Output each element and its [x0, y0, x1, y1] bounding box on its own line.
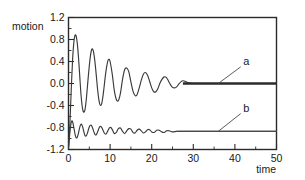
x-axis-title: time	[256, 163, 276, 175]
y-axis-title: motion	[12, 20, 44, 32]
y-tick-label: 1.2	[50, 11, 65, 23]
data-series-group	[69, 35, 277, 149]
curve-annotations: ab	[218, 55, 250, 131]
y-tick-label: 0.8	[50, 33, 65, 45]
y-tick-label: -1.2	[46, 143, 64, 155]
x-tick-label: 30	[187, 152, 199, 164]
curve-label-a: a	[243, 55, 250, 67]
x-axis-tick-labels: 01020304050	[66, 152, 283, 164]
curve-label-b: b	[243, 102, 249, 114]
y-tick-label: 0.4	[50, 55, 65, 67]
x-tick-label: 10	[104, 152, 116, 164]
y-tick-label: -0.4	[46, 99, 64, 111]
y-tick-label: -0.8	[46, 121, 64, 133]
series-b	[69, 121, 277, 147]
chart-figure: 1.20.80.40.0-0.4-0.8-1.2 01020304050 ab …	[0, 0, 305, 180]
chart-svg: 1.20.80.40.0-0.4-0.8-1.2 01020304050 ab …	[0, 0, 305, 180]
leader-line-b	[218, 114, 240, 132]
x-tick-label: 20	[146, 152, 158, 164]
x-tick-label: 0	[66, 152, 72, 164]
x-tick-label: 40	[229, 152, 241, 164]
leader-line-a	[218, 67, 240, 84]
x-axis-ticks	[69, 144, 277, 150]
y-axis-tick-labels: 1.20.80.40.0-0.4-0.8-1.2	[46, 11, 64, 155]
y-tick-label: 0.0	[50, 77, 65, 89]
curve-b	[69, 121, 277, 147]
